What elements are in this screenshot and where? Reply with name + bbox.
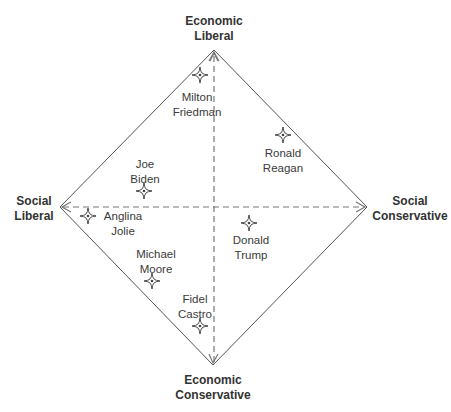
person-label-fidel-castro: Fidel Castro <box>172 292 218 322</box>
star-marker-icon <box>241 215 257 231</box>
political-compass-diagram: Economic Liberal Economic Conservative S… <box>0 0 451 412</box>
person-name-line2: Biden <box>120 172 170 187</box>
axis-label-right-line2: Conservative <box>370 209 450 224</box>
person-name-line1: Michael <box>128 247 184 262</box>
person-name-line2: Trump <box>226 248 276 263</box>
axis-label-right-line1: Social <box>370 194 450 209</box>
axis-label-bottom-line1: Economic <box>168 373 258 388</box>
person-name-line1: Fidel <box>172 292 218 307</box>
axis-label-left-line2: Liberal <box>14 209 54 224</box>
axis-label-top-line1: Economic <box>184 14 244 29</box>
axis-label-bottom-line2: Conservative <box>168 388 258 403</box>
axis-label-top-line2: Liberal <box>184 29 244 44</box>
star-marker-icon <box>80 208 96 224</box>
axis-label-right: Social Conservative <box>370 194 450 224</box>
axis-label-top: Economic Liberal <box>184 14 244 44</box>
person-label-michael-moore: Michael Moore <box>128 247 184 277</box>
person-label-milton-friedman: Milton Friedman <box>162 90 232 120</box>
person-label-joe-biden: Joe Biden <box>120 157 170 187</box>
axis-label-left-line1: Social <box>14 194 54 209</box>
axis-label-left: Social Liberal <box>14 194 54 224</box>
person-label-donald-trump: Donald Trump <box>226 233 276 263</box>
person-name-line1: Anglina <box>98 209 148 224</box>
person-label-anglina-jolie: Anglina Jolie <box>98 209 148 239</box>
axis-label-bottom: Economic Conservative <box>168 373 258 403</box>
person-name-line1: Ronald <box>250 146 316 161</box>
person-name-line1: Milton <box>162 90 232 105</box>
person-name-line2: Castro <box>172 307 218 322</box>
person-name-line1: Donald <box>226 233 276 248</box>
person-name-line2: Friedman <box>162 105 232 120</box>
person-name-line2: Moore <box>128 262 184 277</box>
person-name-line2: Reagan <box>250 161 316 176</box>
star-marker-icon <box>275 127 291 143</box>
person-name-line2: Jolie <box>98 224 148 239</box>
person-label-ronald-reagan: Ronald Reagan <box>250 146 316 176</box>
person-name-line1: Joe <box>120 157 170 172</box>
